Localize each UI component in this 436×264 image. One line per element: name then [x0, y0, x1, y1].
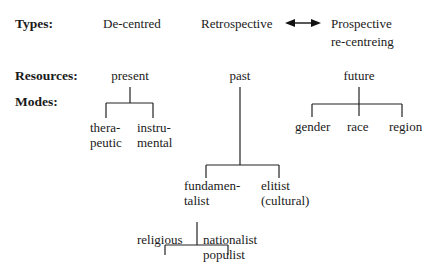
mode-instrumental-line2: mental: [137, 135, 172, 150]
mode-nationalist-line2: populist: [203, 247, 245, 262]
future-tree-lines: [312, 87, 402, 117]
mode-region: region: [389, 119, 422, 134]
mode-fundamentalist-line2: talist: [184, 193, 209, 208]
modes-label: Modes:: [15, 94, 58, 109]
mode-instrumental: instru-: [137, 120, 171, 135]
double-arrow-icon: [285, 19, 321, 27]
resource-past: past: [222, 68, 258, 83]
resource-present: present: [110, 68, 150, 83]
type-decentred: De-centred: [103, 16, 161, 31]
mode-fundamentalist: fundamen-: [184, 178, 240, 193]
mode-elitist: elitist: [261, 178, 290, 193]
type-prospective-line2: re-centreing: [331, 34, 394, 49]
mode-therapeutic-line2: peutic: [90, 135, 122, 150]
mode-religious: religious: [137, 232, 183, 247]
type-prospective: Prospective: [331, 16, 392, 31]
type-retrospective: Retrospective: [201, 16, 272, 31]
types-label: Types:: [15, 16, 53, 31]
mode-elitist-line2: (cultural): [261, 193, 309, 208]
present-tree-lines: [106, 87, 153, 118]
resources-label: Resources:: [15, 68, 78, 83]
mode-therapeutic: thera-: [90, 120, 120, 135]
resource-future: future: [340, 68, 378, 83]
mode-gender: gender: [295, 119, 330, 134]
mode-race: race: [347, 119, 369, 134]
past-tree-lines: [206, 87, 279, 178]
mode-nationalist: nationalist: [203, 232, 257, 247]
